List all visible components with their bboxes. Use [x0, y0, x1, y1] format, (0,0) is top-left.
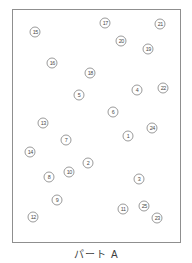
numbered-circle-2[interactable]: 2 [83, 158, 94, 169]
circle-number: 10 [66, 169, 71, 174]
numbered-circle-9[interactable]: 9 [52, 195, 63, 206]
circle-number: 3 [138, 176, 141, 181]
circle-number: 2 [87, 160, 90, 165]
numbered-circle-8[interactable]: 8 [44, 172, 55, 183]
part-label: パート A [12, 246, 181, 261]
circle-number: 16 [49, 60, 54, 65]
circle-number: 24 [149, 125, 154, 130]
numbered-circle-11[interactable]: 11 [118, 204, 129, 215]
circle-number: 5 [78, 92, 81, 97]
circle-number: 13 [40, 120, 45, 125]
numbered-circle-18[interactable]: 18 [85, 68, 96, 79]
circle-number: 9 [56, 197, 59, 202]
numbered-circle-22[interactable]: 22 [158, 83, 169, 94]
numbered-circle-20[interactable]: 20 [116, 36, 127, 47]
numbered-circle-5[interactable]: 5 [74, 90, 85, 101]
circle-number: 22 [160, 85, 165, 90]
numbered-circle-21[interactable]: 21 [155, 19, 166, 30]
numbered-circle-25[interactable]: 25 [139, 201, 150, 212]
numbered-circle-10[interactable]: 10 [64, 167, 75, 178]
numbered-circle-6[interactable]: 6 [108, 107, 119, 118]
circle-number: 14 [27, 149, 32, 154]
circle-number: 21 [157, 21, 162, 26]
numbered-circle-19[interactable]: 19 [143, 44, 154, 55]
circle-number: 1 [127, 133, 130, 138]
circle-number: 4 [136, 87, 139, 92]
circle-number: 18 [87, 70, 92, 75]
circle-number: 8 [48, 174, 51, 179]
circle-number: 19 [145, 46, 150, 51]
numbered-circle-12[interactable]: 12 [28, 212, 39, 223]
circle-number: 11 [121, 206, 126, 211]
circle-number: 23 [154, 215, 159, 220]
numbered-circle-23[interactable]: 23 [152, 213, 163, 224]
circle-number: 6 [112, 109, 115, 114]
numbered-circle-15[interactable]: 15 [30, 27, 41, 38]
numbered-circle-7[interactable]: 7 [61, 135, 72, 146]
numbered-circle-17[interactable]: 17 [100, 18, 111, 29]
numbered-circle-24[interactable]: 24 [147, 123, 158, 134]
circle-number: 17 [102, 20, 107, 25]
circle-number: 20 [118, 38, 123, 43]
trail-making-test-sheet: パート A 1234567891011121314151617181920212… [0, 0, 192, 263]
numbered-circle-1[interactable]: 1 [123, 131, 134, 142]
circle-number: 25 [141, 203, 146, 208]
numbered-circle-4[interactable]: 4 [132, 85, 143, 96]
numbered-circle-14[interactable]: 14 [25, 147, 36, 158]
numbered-circle-3[interactable]: 3 [134, 174, 145, 185]
circle-number: 12 [30, 214, 35, 219]
numbered-circle-16[interactable]: 16 [47, 58, 58, 69]
circle-number: 7 [65, 137, 68, 142]
circle-number: 15 [32, 29, 37, 34]
numbered-circle-13[interactable]: 13 [38, 118, 49, 129]
